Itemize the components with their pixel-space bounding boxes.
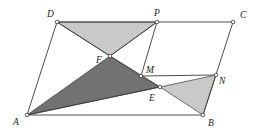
vertex-p <box>155 20 159 24</box>
vertex-f <box>108 54 112 58</box>
region-triangle-enb <box>160 75 216 115</box>
vertex-n <box>214 73 218 77</box>
label-e: E <box>148 93 155 103</box>
vertex-d <box>55 20 59 24</box>
label-f: F <box>95 55 102 65</box>
edge-bc <box>203 22 233 115</box>
vertex-e <box>158 85 162 89</box>
region-triangle-dpf <box>57 22 157 56</box>
vertex-m <box>139 74 143 78</box>
vertex-b <box>201 113 205 117</box>
label-n: N <box>218 76 226 86</box>
label-b: B <box>208 118 214 128</box>
label-d: D <box>46 9 54 19</box>
vertex-a <box>25 113 29 117</box>
geometry-diagram: D P C F M N E A B <box>0 0 258 132</box>
vertex-c <box>231 20 235 24</box>
label-m: M <box>145 65 155 75</box>
label-c: C <box>240 10 247 20</box>
label-p: P <box>153 8 160 18</box>
label-a: A <box>12 117 19 127</box>
region-triangle-afe <box>27 56 160 115</box>
segment-mn <box>141 75 216 76</box>
